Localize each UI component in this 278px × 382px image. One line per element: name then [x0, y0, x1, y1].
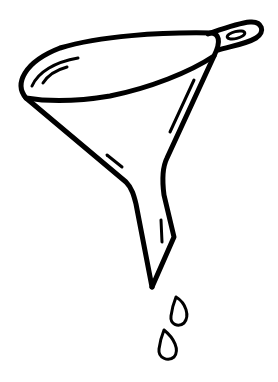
drop-1	[171, 297, 187, 325]
cone-left	[26, 98, 152, 287]
funnel-icon	[0, 0, 278, 382]
cone-right	[152, 56, 214, 287]
drop-2	[159, 330, 176, 359]
funnel-illustration	[0, 0, 278, 382]
handle-hole	[226, 29, 245, 40]
